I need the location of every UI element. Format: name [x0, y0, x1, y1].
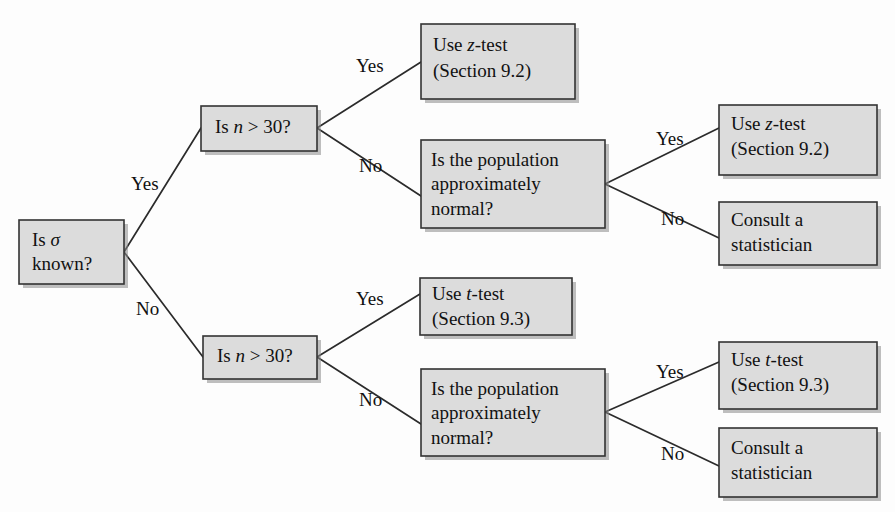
- edge-label-root-yes: Yes: [131, 173, 159, 194]
- node-label-line2: known?: [32, 253, 92, 274]
- node-label-line2: approximately: [431, 173, 541, 194]
- node-consult-statistician-top[interactable]: Consult a statistician: [719, 202, 881, 269]
- node-label-line2: statistician: [731, 234, 813, 255]
- node-is-sigma-known[interactable]: Is σ known?: [19, 220, 128, 288]
- node-label-line2: (Section 9.3): [731, 374, 829, 396]
- node-label-line3: normal?: [431, 198, 493, 219]
- edge-label-right-no: No: [661, 208, 684, 229]
- node-use-t-test-right[interactable]: Use t-test (Section 9.3): [719, 342, 881, 413]
- node-label-line1: Is σ: [32, 229, 60, 250]
- node-consult-statistician-bottom[interactable]: Consult a statistician: [719, 428, 881, 501]
- node-label-line2: (Section 9.3): [432, 308, 530, 330]
- node-label-line2: approximately: [431, 402, 541, 423]
- node-label-line1: Is the population: [431, 149, 559, 170]
- node-label: Is n > 30?: [217, 345, 293, 366]
- node-label-line1: Consult a: [731, 437, 804, 458]
- edge-label-root-no: No: [136, 298, 159, 319]
- node-is-population-normal-bottom[interactable]: Is the population approximately normal?: [421, 369, 609, 460]
- node-label-line3: normal?: [431, 427, 493, 448]
- node-label-line2: (Section 9.2): [731, 138, 829, 160]
- flowchart-canvas: Is σ known? Is n > 30? Use z-test (Secti…: [0, 0, 895, 512]
- node-use-z-test-right[interactable]: Use z-test (Section 9.2): [719, 105, 881, 179]
- edge-label-top-no: No: [359, 155, 382, 176]
- node-label-line1: Use z-test: [433, 34, 508, 55]
- flowchart-svg: Is σ known? Is n > 30? Use z-test (Secti…: [0, 0, 895, 512]
- edge-label-bottom-right-no: No: [661, 443, 684, 464]
- node-label: Is n > 30?: [215, 116, 291, 137]
- node-label-line2: statistician: [731, 462, 813, 483]
- node-label-line1: Is the population: [431, 378, 559, 399]
- node-is-population-normal-top[interactable]: Is the population approximately normal?: [421, 140, 609, 232]
- node-use-z-test-top[interactable]: Use z-test (Section 9.2): [421, 24, 579, 103]
- node-label-line1: Consult a: [731, 209, 804, 230]
- edge-label-bottom-yes: Yes: [356, 288, 384, 309]
- node-is-n-gt-30-bottom[interactable]: Is n > 30?: [203, 336, 321, 383]
- edge-label-bottom-no: No: [359, 389, 382, 410]
- node-use-t-test-mid[interactable]: Use t-test (Section 9.3): [420, 278, 576, 339]
- node-is-n-gt-30-top[interactable]: Is n > 30?: [201, 106, 321, 155]
- node-label-line1: Use t-test: [731, 349, 804, 370]
- node-label-line1: Use z-test: [731, 113, 806, 134]
- node-label-line2: (Section 9.2): [433, 60, 531, 82]
- node-label-line1: Use t-test: [432, 283, 505, 304]
- edge-label-bottom-right-yes: Yes: [656, 361, 684, 382]
- edge-label-top-yes: Yes: [356, 55, 384, 76]
- edge-label-right-yes: Yes: [656, 128, 684, 149]
